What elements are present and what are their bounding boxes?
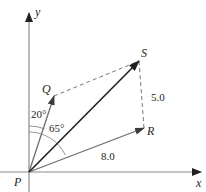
magnitude-pr-label: 8.0: [101, 150, 115, 162]
vector-pr: [29, 128, 144, 172]
dashed-segment-qs: [54, 61, 139, 96]
angle-arc-65: [29, 132, 65, 155]
magnitude-rs-label: 5.0: [151, 91, 165, 103]
vector-diagram: y x P Q S R 5.0 8.0 20° 65°: [0, 0, 206, 192]
point-s-label: S: [141, 46, 147, 60]
y-axis-label: y: [34, 5, 41, 19]
point-r-label: R: [146, 124, 155, 138]
point-q-label: Q: [42, 82, 51, 96]
angle-65-label: 65°: [49, 122, 64, 134]
dashed-segment-rs: [139, 61, 144, 128]
point-p-label: P: [13, 175, 22, 189]
x-axis-label: x: [195, 176, 202, 190]
angle-arc-20: [29, 126, 45, 129]
angle-20-label: 20°: [31, 108, 46, 120]
